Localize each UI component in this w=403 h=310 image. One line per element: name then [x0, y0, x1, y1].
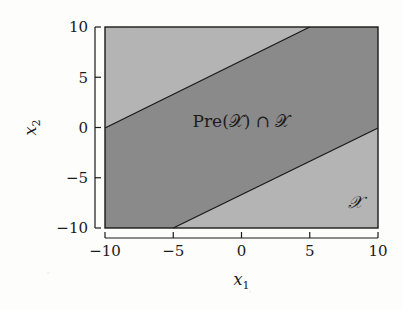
- x-axis-ticks: [105, 232, 378, 238]
- y-tick-label-10: 10: [69, 18, 88, 36]
- y-tick-label-5: 5: [78, 69, 88, 87]
- x-tick-label-10: 10: [368, 242, 387, 260]
- x-tick-label-0: 0: [237, 242, 247, 260]
- set-invariance-plot: 10 5 0 −5 −10 −10 −5 0 5 10 x1 x2 Pre(𝒳)…: [0, 0, 403, 310]
- x-tick-label-5: 5: [305, 242, 315, 260]
- figure-container: 10 5 0 −5 −10 −10 −5 0 5 10 x1 x2 Pre(𝒳)…: [0, 0, 403, 310]
- y-tick-label-minus-5: −5: [66, 169, 88, 187]
- y-axis-title-base: x: [21, 126, 40, 135]
- x-tick-label-minus-5: −5: [162, 242, 184, 260]
- x-axis-title-base: x: [233, 270, 242, 289]
- y-tick-label-0: 0: [78, 119, 88, 137]
- intersection-annotation: Pre(𝒳) ∩ 𝒳: [193, 111, 293, 131]
- y-axis-title-subscript: 2: [30, 119, 43, 126]
- x-tick-label-minus-10: −10: [89, 242, 121, 260]
- y-axis-title: x2: [21, 119, 43, 135]
- y-axis-ticks: [95, 27, 101, 228]
- y-tick-label-minus-10: −10: [56, 219, 88, 237]
- x-axis-title-subscript: 1: [243, 279, 250, 292]
- x-axis-title: x1: [233, 270, 249, 292]
